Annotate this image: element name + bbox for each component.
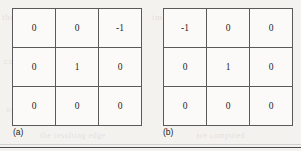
matrix-cell: 0 <box>13 9 56 48</box>
panel-caption-a: (a) <box>13 127 23 137</box>
figure-container: 0 0 -1 0 1 0 0 0 0 -1 <box>0 0 301 151</box>
matrix-cell: 0 <box>250 48 293 87</box>
matrix-cell: 0 <box>164 48 207 87</box>
matrix-cell: 0 <box>207 9 250 48</box>
matrix-row: 0 0 0 <box>164 87 293 126</box>
matrix-cell: 0 <box>99 87 142 126</box>
matrix-grid-a: 0 0 -1 0 1 0 0 0 0 <box>12 8 142 126</box>
matrix-cell: 0 <box>56 87 99 126</box>
matrix-row: -1 0 0 <box>164 9 293 48</box>
matrix-panel-a: 0 0 -1 0 1 0 0 0 0 <box>12 8 142 126</box>
matrix-row: 0 0 0 <box>13 87 142 126</box>
matrix-cell: 1 <box>56 48 99 87</box>
panel-caption-b: (b) <box>163 127 173 137</box>
matrix-cell: 0 <box>13 48 56 87</box>
matrix-panel-b: -1 0 0 0 1 0 0 0 0 <box>163 8 293 126</box>
matrix-cell: 0 <box>56 9 99 48</box>
matrix-row: 0 1 0 <box>164 48 293 87</box>
matrix-cell: 0 <box>250 9 293 48</box>
footer-rule-soft <box>0 144 301 145</box>
matrix-row: 0 0 -1 <box>13 9 142 48</box>
matrix-cell: -1 <box>164 9 207 48</box>
footer-rule <box>0 147 301 148</box>
matrix-cell: 0 <box>164 87 207 126</box>
matrix-row: 0 1 0 <box>13 48 142 87</box>
matrix-cell: 0 <box>99 48 142 87</box>
matrix-cell: 0 <box>207 87 250 126</box>
matrix-cell: 0 <box>13 87 56 126</box>
matrix-cell: 0 <box>250 87 293 126</box>
matrix-cell: -1 <box>99 9 142 48</box>
matrix-grid-b: -1 0 0 0 1 0 0 0 0 <box>163 8 293 126</box>
matrix-cell: 1 <box>207 48 250 87</box>
